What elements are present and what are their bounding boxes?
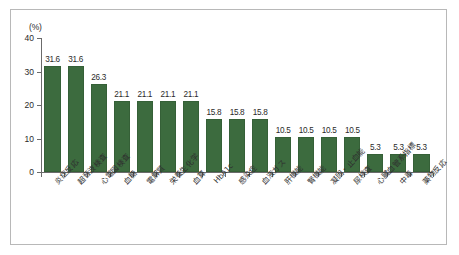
bar-chart: (%) 010203040 31.631.626.321.121.121.121… bbox=[11, 10, 448, 246]
bar bbox=[44, 66, 60, 172]
y-tick-label: 10 bbox=[11, 134, 34, 144]
bar-value-label: 10.5 bbox=[339, 126, 365, 135]
y-tick-mark bbox=[37, 72, 42, 73]
bar bbox=[68, 66, 84, 172]
chart-frame: (%) 010203040 31.631.626.321.121.121.121… bbox=[10, 9, 447, 245]
y-tick-label: 20 bbox=[11, 100, 34, 110]
y-tick-label: 30 bbox=[11, 67, 34, 77]
y-tick-mark bbox=[37, 139, 42, 140]
bar-value-label: 15.8 bbox=[247, 108, 273, 117]
bar bbox=[206, 119, 222, 172]
y-axis-unit-label: (%) bbox=[29, 22, 42, 32]
x-tick-mark bbox=[41, 173, 42, 177]
bar-value-label: 26.3 bbox=[86, 73, 112, 82]
y-tick-label: 0 bbox=[11, 167, 34, 177]
x-axis-line bbox=[41, 172, 433, 173]
bar bbox=[137, 101, 153, 172]
bar bbox=[160, 101, 176, 172]
bar-value-label: 31.6 bbox=[63, 55, 89, 64]
y-tick-label: 40 bbox=[11, 33, 34, 43]
y-tick-mark bbox=[37, 38, 42, 39]
y-tick-mark bbox=[37, 105, 42, 106]
bar bbox=[252, 119, 268, 172]
bar-value-label: 21.1 bbox=[178, 90, 204, 99]
